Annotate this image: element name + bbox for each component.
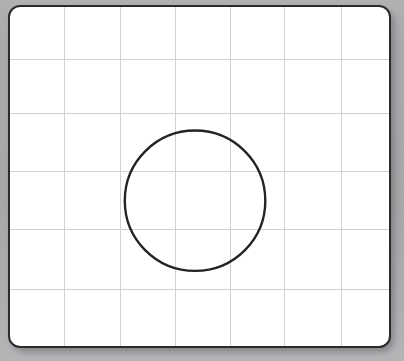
- graph-paper-sheet[interactable]: [8, 5, 391, 348]
- drawn-shapes[interactable]: [125, 131, 266, 271]
- circle-outline[interactable]: [125, 131, 266, 271]
- canvas-stage: Grid Sketch Canvas: [0, 0, 404, 361]
- shape-layer: [10, 7, 389, 346]
